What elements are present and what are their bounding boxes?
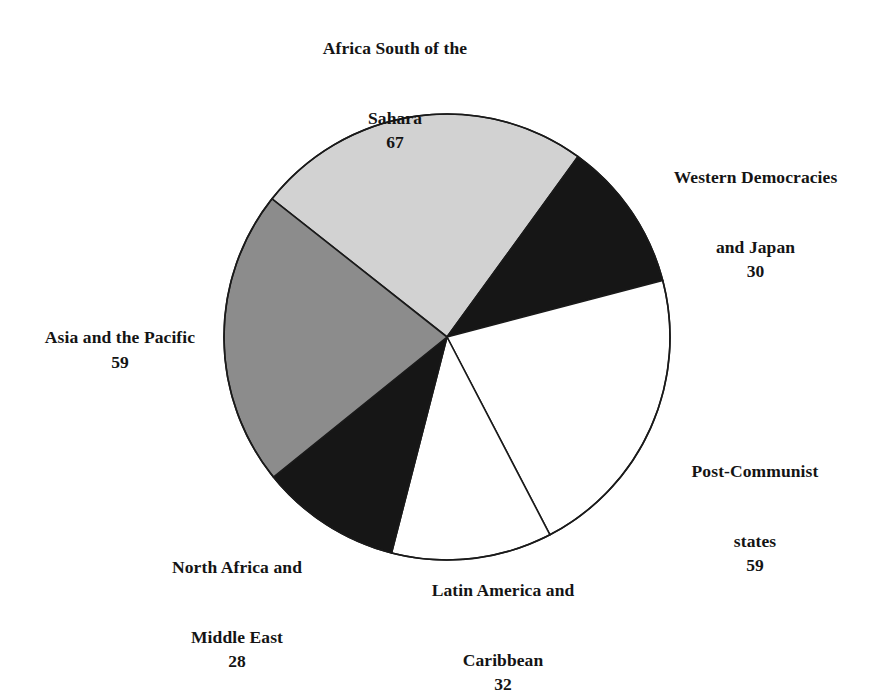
pie-label-western-democracies-and-japan: Western Democracies and Japan 30 [636, 143, 875, 307]
pie-label-africa-south-of-the-sahara: Africa South of the Sahara 67 [275, 14, 515, 178]
pie-label-value: 30 [636, 260, 875, 283]
pie-label-value: 28 [122, 650, 352, 673]
pie-label-north-africa-and-middle-east: North Africa and Middle East 28 [122, 533, 352, 694]
pie-label-asia-and-the-pacific: Asia and the Pacific 59 [6, 303, 234, 397]
pie-label-value: 59 [6, 351, 234, 374]
pie-label-line1: Africa South of the [323, 38, 467, 58]
pie-label-line1: North Africa and [172, 557, 302, 577]
pie-label-value: 67 [275, 131, 515, 154]
pie-label-line2: and Japan [716, 237, 795, 257]
pie-label-line1: Latin America and [432, 580, 575, 600]
pie-label-latin-america-and-caribbean: Latin America and Caribbean 32 [388, 556, 618, 694]
pie-label-line2: states [734, 531, 776, 551]
pie-label-line2: Caribbean [463, 650, 544, 670]
pie-slice-group [224, 114, 670, 560]
pie-label-line2: Middle East [191, 627, 283, 647]
pie-label-post-communist-states: Post-Communist states 59 [655, 437, 855, 601]
pie-label-line2: Sahara [368, 108, 422, 128]
pie-label-value: 59 [655, 554, 855, 577]
pie-label-line1: Western Democracies [674, 167, 838, 187]
pie-label-line1: Post-Communist [692, 461, 819, 481]
pie-label-value: 32 [388, 673, 618, 694]
pie-label-line1: Asia and the Pacific [45, 327, 195, 347]
